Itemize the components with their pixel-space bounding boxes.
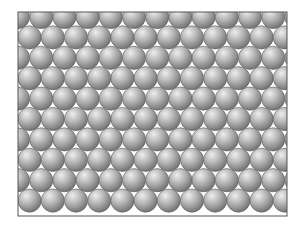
sphere xyxy=(53,169,76,192)
sphere xyxy=(204,148,227,171)
sphere xyxy=(192,87,215,110)
sphere xyxy=(99,87,122,110)
sphere xyxy=(296,67,303,90)
sphere xyxy=(157,67,180,90)
sphere xyxy=(157,107,180,130)
sphere xyxy=(18,107,41,130)
sphere xyxy=(180,67,203,90)
sphere xyxy=(146,128,169,151)
sphere xyxy=(169,169,192,192)
sphere xyxy=(76,46,99,69)
sphere xyxy=(53,46,76,69)
sphere xyxy=(134,107,157,130)
sphere xyxy=(215,169,238,192)
sphere xyxy=(146,46,169,69)
sphere xyxy=(111,148,134,171)
sphere xyxy=(64,67,87,90)
sphere xyxy=(227,148,250,171)
sphere xyxy=(262,46,285,69)
sphere xyxy=(53,5,76,28)
sphere xyxy=(88,189,111,212)
sphere xyxy=(88,26,111,49)
sphere xyxy=(296,107,303,130)
sphere xyxy=(146,5,169,28)
sphere xyxy=(122,87,145,110)
sphere xyxy=(192,169,215,192)
sphere xyxy=(250,189,273,212)
sphere xyxy=(111,107,134,130)
sphere xyxy=(18,26,41,49)
sphere xyxy=(262,87,285,110)
sphere xyxy=(250,148,273,171)
sphere xyxy=(134,148,157,171)
sphere xyxy=(99,169,122,192)
sphere xyxy=(134,67,157,90)
sphere xyxy=(41,67,64,90)
sphere xyxy=(88,67,111,90)
sphere xyxy=(285,169,303,192)
sphere xyxy=(204,26,227,49)
sphere xyxy=(76,169,99,192)
sphere xyxy=(111,26,134,49)
sphere xyxy=(180,107,203,130)
sphere xyxy=(250,26,273,49)
sphere xyxy=(99,128,122,151)
sphere xyxy=(146,87,169,110)
sphere xyxy=(180,189,203,212)
sphere xyxy=(18,148,41,171)
sphere xyxy=(192,46,215,69)
sphere xyxy=(30,128,53,151)
sphere xyxy=(227,189,250,212)
sphere xyxy=(41,26,64,49)
sphere xyxy=(64,148,87,171)
sphere xyxy=(169,46,192,69)
sphere xyxy=(262,5,285,28)
sphere xyxy=(76,87,99,110)
sphere xyxy=(273,67,296,90)
sphere xyxy=(285,5,303,28)
sphere xyxy=(238,169,261,192)
sphere xyxy=(180,26,203,49)
sphere xyxy=(88,107,111,130)
sphere xyxy=(285,46,303,69)
sphere xyxy=(30,5,53,28)
sphere xyxy=(273,189,296,212)
sphere xyxy=(215,87,238,110)
sphere xyxy=(273,26,296,49)
sphere xyxy=(250,67,273,90)
sphere xyxy=(99,46,122,69)
sphere xyxy=(111,67,134,90)
sphere xyxy=(169,87,192,110)
sphere xyxy=(18,189,41,212)
sphere xyxy=(146,169,169,192)
sphere xyxy=(64,26,87,49)
sphere xyxy=(204,67,227,90)
sphere xyxy=(227,107,250,130)
sphere xyxy=(41,107,64,130)
sphere xyxy=(111,189,134,212)
sphere xyxy=(238,128,261,151)
sphere xyxy=(180,148,203,171)
sphere xyxy=(122,169,145,192)
sphere xyxy=(134,189,157,212)
sphere xyxy=(41,148,64,171)
sphere xyxy=(122,5,145,28)
sphere xyxy=(64,107,87,130)
sphere xyxy=(122,128,145,151)
sphere xyxy=(238,87,261,110)
sphere xyxy=(238,5,261,28)
sphere xyxy=(296,189,303,212)
sphere xyxy=(296,26,303,49)
sphere xyxy=(169,128,192,151)
sphere xyxy=(262,128,285,151)
sphere xyxy=(169,5,192,28)
sphere xyxy=(285,87,303,110)
sphere xyxy=(30,169,53,192)
sphere xyxy=(215,128,238,151)
sphere-lattice xyxy=(6,5,303,212)
sphere xyxy=(64,189,87,212)
sphere xyxy=(30,87,53,110)
sphere-packing-diagram xyxy=(0,0,303,228)
sphere xyxy=(204,189,227,212)
sphere xyxy=(192,128,215,151)
